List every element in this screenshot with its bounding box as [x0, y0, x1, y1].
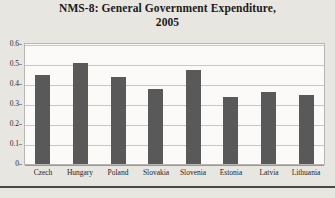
y-tick-mark — [19, 124, 22, 125]
x-tick-label: Hungary — [67, 168, 93, 178]
y-tick-mark — [19, 164, 22, 165]
chart-title-line-2: 2005 — [0, 15, 335, 29]
x-tick-label: Slovenia — [180, 168, 206, 178]
y-tick-mark — [19, 44, 22, 45]
chart-title: NMS-8: General Government Expenditure, 2… — [0, 1, 335, 29]
x-axis-labels: CzechHungaryPolandSlovakiaSloveniaEstoni… — [24, 168, 325, 180]
bar — [186, 70, 201, 164]
y-tick-mark — [19, 144, 22, 145]
bottom-divider — [0, 186, 335, 188]
bar — [111, 77, 126, 164]
chart-title-line-1: NMS-8: General Government Expenditure, — [59, 2, 276, 14]
bar-series — [24, 43, 325, 165]
gridline — [25, 165, 324, 166]
bar — [223, 97, 238, 164]
y-tick-label: 0.4 — [10, 80, 19, 88]
bar — [148, 89, 163, 164]
x-tick-label: Latvia — [259, 168, 278, 178]
y-tick-mark — [19, 84, 22, 85]
x-tick-label: Slovakia — [143, 168, 169, 178]
y-tick-mark — [19, 104, 22, 105]
bar — [261, 92, 276, 164]
y-tick-label: 0.6 — [10, 40, 19, 48]
y-axis: 0.60.50.40.30.20.10 — [0, 43, 22, 165]
y-tick-label: 0.5 — [10, 60, 19, 68]
y-tick-mark — [19, 64, 22, 65]
bar — [73, 63, 88, 164]
x-tick-label: Lithuania — [292, 168, 321, 178]
y-tick-label: 0.3 — [10, 100, 19, 108]
bar — [299, 95, 314, 164]
x-tick-label: Poland — [108, 168, 129, 178]
bar — [35, 75, 50, 164]
chart-figure: NMS-8: General Government Expenditure, 2… — [0, 0, 335, 198]
y-tick-label: 0.2 — [10, 120, 19, 128]
x-tick-label: Estonia — [220, 168, 243, 178]
x-tick-label: Czech — [34, 168, 53, 178]
y-tick-label: 0.1 — [10, 140, 19, 148]
